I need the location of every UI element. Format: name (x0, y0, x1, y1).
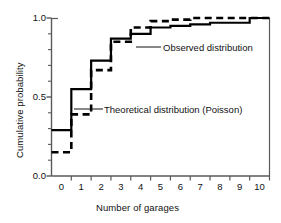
x-tick-label: 3 (112, 181, 130, 192)
x-tick-label: 8 (211, 181, 229, 192)
x-tick-label: 5 (152, 181, 170, 192)
annotation-leader-lines (74, 47, 161, 109)
y-axis-ticks (47, 18, 52, 176)
x-tick-label: 9 (231, 181, 249, 192)
x-tick-label: 1 (72, 181, 90, 192)
x-tick-label: 10 (251, 181, 269, 192)
x-tick-label: 0 (52, 181, 70, 192)
x-tick-label: 6 (171, 181, 189, 192)
y-tick-label: 0.0 (22, 170, 46, 181)
annotation-observed: Observed distribution (163, 42, 253, 53)
series-line (52, 18, 270, 152)
x-tick-label: 2 (92, 181, 110, 192)
x-tick-label: 4 (132, 181, 150, 192)
x-tick-label: 7 (191, 181, 209, 192)
annotation-theoretical: Theoretical distribution (Poisson) (104, 104, 242, 115)
y-axis-title: Cumulative probability (14, 62, 25, 158)
y-tick-label: 0.5 (22, 91, 46, 102)
cumulative-distribution-chart: Cumulative probability Number of garages… (0, 0, 281, 223)
x-axis-title: Number of garages (96, 202, 179, 213)
y-tick-label: 1.0 (22, 12, 46, 23)
series-step-lines (52, 18, 270, 152)
